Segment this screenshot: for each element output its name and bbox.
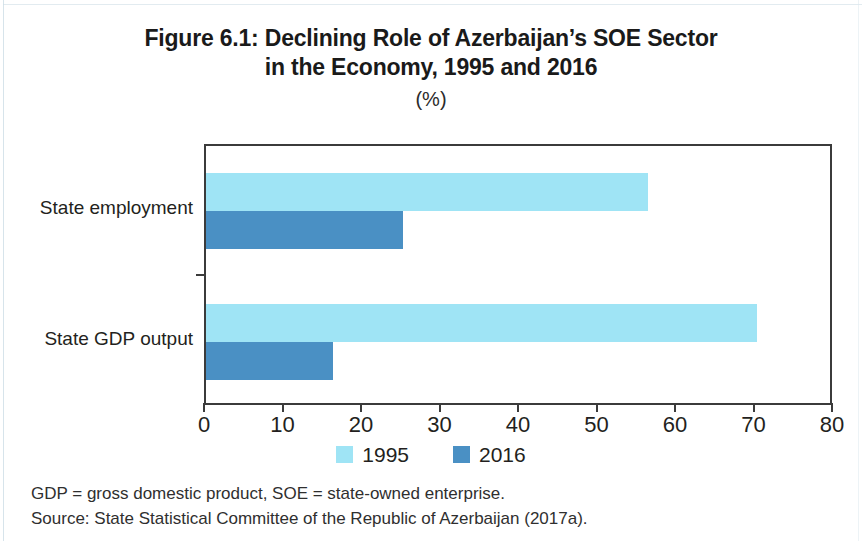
x-axis-tick [360, 403, 362, 412]
category-label-state-employment: State employment [40, 197, 193, 219]
plot-frame [204, 144, 832, 405]
x-axis-tick-label: 30 [410, 412, 470, 438]
category-label-state-gdp-output: State GDP output [44, 328, 193, 350]
x-axis-tick [203, 403, 205, 412]
x-axis-tick [753, 403, 755, 412]
chart-legend: 19952016 [0, 444, 862, 465]
x-axis-tick [282, 403, 284, 412]
legend-swatch-2016 [453, 446, 470, 463]
bar-2016-state-gdp-output [206, 342, 333, 380]
x-axis-tick-label: 40 [488, 412, 548, 438]
footnote-source: Source: State Statistical Committee of t… [31, 506, 831, 531]
x-axis-tick [439, 403, 441, 412]
y-axis-tick [196, 274, 205, 276]
figure-page: Figure 6.1: Declining Role of Azerbaijan… [0, 0, 862, 541]
bar-1995-state-gdp-output [206, 304, 757, 342]
x-axis-tick [596, 403, 598, 412]
legend-item-2016: 2016 [453, 444, 526, 465]
legend-label-2016: 2016 [479, 444, 526, 465]
bar-2016-state-employment [206, 211, 403, 249]
x-axis-tick-label: 80 [802, 412, 862, 438]
x-axis-tick-label: 60 [645, 412, 705, 438]
x-axis-tick [831, 403, 833, 412]
x-axis-tick-label: 0 [174, 412, 234, 438]
x-axis-tick [674, 403, 676, 412]
legend-label-1995: 1995 [362, 444, 409, 465]
x-axis-tick-label: 20 [331, 412, 391, 438]
legend-item-1995: 1995 [336, 444, 409, 465]
x-axis-tick-label: 50 [567, 412, 627, 438]
bar-1995-state-employment [206, 173, 648, 211]
footnote-abbreviations: GDP = gross domestic product, SOE = stat… [31, 481, 831, 506]
footnotes: GDP = gross domestic product, SOE = stat… [31, 481, 831, 531]
x-axis-tick [517, 403, 519, 412]
legend-swatch-1995 [336, 446, 353, 463]
x-axis-tick-label: 10 [253, 412, 313, 438]
x-axis-tick-label: 70 [724, 412, 784, 438]
